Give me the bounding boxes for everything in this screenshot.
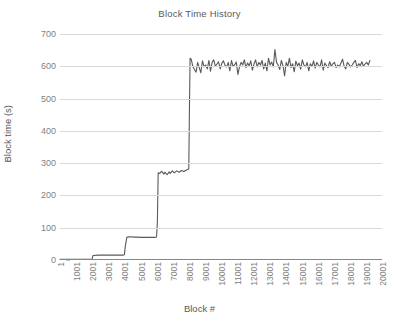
gridline [60,163,382,164]
x-axis-tick-label: 12001 [249,262,259,286]
x-axis-tick-labels: 1100120013001400150016001700180019001100… [60,262,382,304]
x-axis-tick-label: 20001 [378,262,388,286]
plot-area [60,34,382,260]
x-axis-tick-label: 14001 [281,262,291,286]
gridline [60,99,382,100]
x-axis-tick-label: 19001 [362,262,372,286]
x-axis-tick-label: 1 [56,262,66,267]
data-series-line [60,34,382,260]
x-axis-tick-label: 8001 [185,262,195,281]
y-axis-tick-label: 400 [12,126,56,136]
gridline [60,131,382,132]
x-axis-tick-label: 6001 [153,262,163,281]
chart-container: Block Time History Block time (s) 700600… [0,0,399,330]
y-axis-tick-label: 200 [12,190,56,200]
x-axis-tick-label: 10001 [217,262,227,286]
x-axis-tick-label: 3001 [104,262,114,281]
gridline [60,195,382,196]
x-axis-tick-label: 11001 [233,262,243,285]
x-axis-tick-label: 4001 [120,262,130,281]
x-axis-title: Block # [0,303,399,314]
x-axis-tick-label: 9001 [201,262,211,281]
y-axis-tick-label: 300 [12,158,56,168]
x-axis-tick-label: 15001 [298,262,308,286]
y-axis-tick-labels: 7006005004003002001000 [10,34,56,260]
gridline [60,228,382,229]
y-axis-tick-label: 0 [12,255,56,265]
x-axis-tick-label: 1001 [72,262,82,281]
gridline [60,66,382,67]
chart-title: Block Time History [0,8,399,19]
gridline [60,34,382,35]
x-axis-tick-label: 18001 [346,262,356,286]
x-axis-tick-label: 13001 [265,262,275,286]
y-axis-tick-label: 100 [12,223,56,233]
x-axis-tick-label: 7001 [169,262,179,281]
y-axis-tick-label: 600 [12,61,56,71]
x-axis-tick-label: 2001 [88,262,98,281]
x-axis-tick-label: 17001 [330,262,340,286]
x-axis-tick-label: 5001 [137,262,147,281]
x-axis-tick-label: 16001 [314,262,324,286]
y-axis-tick-label: 500 [12,94,56,104]
y-axis-tick-label: 700 [12,29,56,39]
x-axis-line [60,259,382,260]
